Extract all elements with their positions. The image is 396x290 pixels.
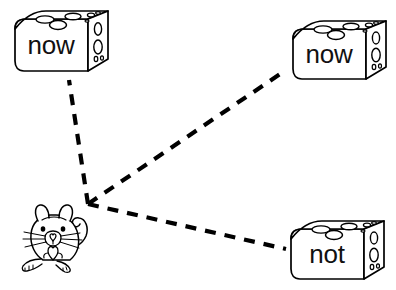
connector-lines-group — [69, 72, 286, 249]
mouse-eye-left — [41, 226, 46, 232]
cheese-label-top-right: now — [305, 39, 353, 69]
cheese-hole — [370, 248, 378, 262]
mouse-eye-right — [61, 226, 66, 232]
cheese-top-right[interactable]: now — [293, 21, 386, 79]
cheese-hole — [372, 32, 379, 44]
cheese-hole — [361, 230, 365, 232]
cheese-hole — [87, 13, 94, 17]
cheese-label-bottom-right: not — [309, 239, 346, 269]
cheese-top-left[interactable]: now — [15, 11, 108, 71]
scene-svg: now now — [0, 0, 396, 290]
line-to-bottom-right[interactable] — [88, 204, 286, 249]
cheese-hole — [341, 223, 357, 230]
cheese-hole — [372, 64, 376, 69]
cheese-bottom-right[interactable]: not — [291, 221, 384, 279]
cheese-hole — [65, 13, 81, 20]
cheese-hole — [365, 23, 372, 27]
cheese-hole — [94, 40, 102, 54]
cheese-hole — [372, 48, 380, 62]
line-to-top-right[interactable] — [88, 72, 283, 204]
cheese-hole — [50, 21, 67, 30]
cheese-hole — [379, 64, 382, 68]
cheese-hole — [370, 264, 374, 269]
cheese-hole — [370, 232, 377, 244]
cheese-hole — [363, 30, 367, 32]
cheese-hole — [374, 22, 379, 25]
cheese-hole — [363, 223, 370, 227]
cheese-hole — [85, 20, 89, 22]
cheese-hole — [94, 23, 101, 35]
cheese-hole — [96, 12, 101, 15]
cheese-hole — [377, 264, 380, 268]
cheese-hole — [343, 23, 359, 30]
mouse[interactable] — [22, 205, 87, 272]
cheese-hole — [101, 56, 104, 60]
cheese-label-top-left: now — [27, 30, 75, 60]
cheese-hole — [94, 56, 98, 61]
line-to-top-left[interactable] — [69, 80, 88, 204]
cheese-hole — [372, 222, 377, 225]
